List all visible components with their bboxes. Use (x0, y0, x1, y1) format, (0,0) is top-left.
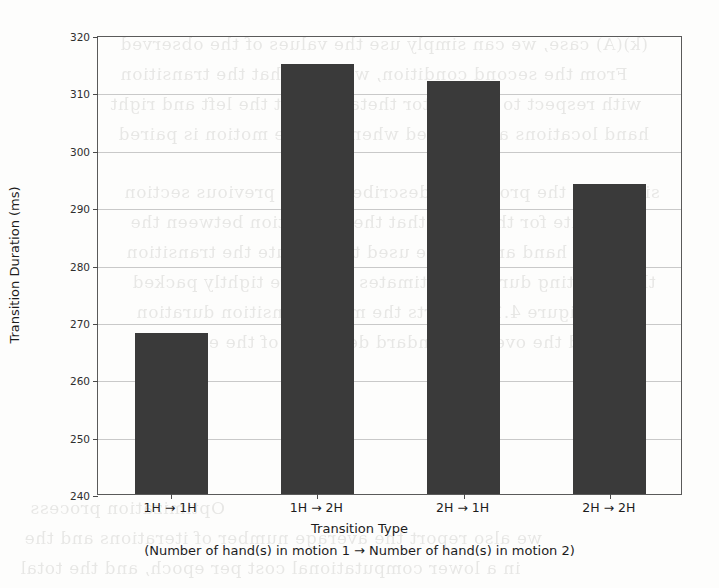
x-axis-subtitle: (Number of hand(s) in motion 1 → Number … (0, 543, 719, 558)
x-tick-mark (317, 494, 318, 499)
bar (573, 184, 646, 494)
x-tick-mark (464, 494, 465, 499)
y-tick-mark (93, 267, 98, 268)
x-tick-label: 2H → 1H (436, 500, 489, 515)
y-tick-label: 280 (70, 261, 90, 273)
y-axis-title: Transition Duration (ms) (7, 186, 22, 343)
y-tick-label: 260 (70, 375, 90, 387)
x-tick-label: 1H → 2H (290, 500, 343, 515)
x-tick-label: 2H → 2H (582, 500, 635, 515)
x-axis-title: Transition Type (0, 521, 719, 536)
figure-page: (k)(A) case, we can simply use the value… (0, 0, 719, 588)
y-tick-mark (93, 496, 98, 497)
x-tick-mark (610, 494, 611, 499)
bar (281, 64, 354, 494)
y-tick-mark (93, 94, 98, 95)
bar (135, 333, 208, 494)
y-tick-mark (93, 152, 98, 153)
y-tick-label: 270 (70, 318, 90, 330)
y-tick-label: 320 (70, 31, 90, 43)
x-tick-mark (171, 494, 172, 499)
y-tick-mark (93, 439, 98, 440)
gridline (98, 94, 681, 95)
y-tick-label: 290 (70, 203, 90, 215)
bar-chart: Transition Duration (ms) 320310300290280… (0, 0, 719, 588)
y-tick-mark (93, 37, 98, 38)
y-tick-mark (93, 324, 98, 325)
y-tick-mark (93, 381, 98, 382)
y-tick-label: 240 (70, 490, 90, 502)
y-tick-label: 250 (70, 433, 90, 445)
y-tick-label: 310 (70, 88, 90, 100)
y-tick-label: 300 (70, 146, 90, 158)
y-tick-mark (93, 209, 98, 210)
gridline (98, 152, 681, 153)
plot-area: 320310300290280270260250240 (97, 36, 682, 495)
x-tick-label: 1H → 1H (144, 500, 197, 515)
bar (427, 81, 500, 494)
